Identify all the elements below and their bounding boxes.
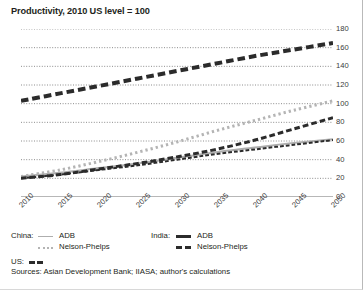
y-tick-label: 80: [336, 119, 344, 127]
plot-svg: [21, 29, 333, 197]
series-line: [21, 43, 333, 101]
legend-label-india-nelson-phelps: Nelson-Phelps: [197, 242, 248, 251]
y-tick-label: 160: [336, 44, 349, 52]
legend-row-3: US:: [11, 252, 351, 267]
legend-swatch-india-adb: [176, 235, 191, 238]
series-line: [21, 118, 333, 179]
x-axis-labels: 201020152020202520302035204020452050: [21, 203, 333, 231]
y-tick-label: 140: [336, 63, 349, 71]
legend-group-china: China:: [11, 231, 34, 240]
y-tick-label: 20: [336, 175, 344, 183]
x-tick-label: 2010: [17, 191, 35, 209]
legend-row-1: China: ADB India: ADB: [11, 230, 351, 241]
series-line: [21, 101, 333, 177]
legend-row-2: Nelson-Phelps Nelson-Phelps: [11, 241, 351, 252]
legend-swatch-india-nelson-phelps: [176, 246, 191, 249]
legend-group-india: India:: [151, 231, 170, 240]
legend-label-china-nelson-phelps: Nelson-Phelps: [59, 242, 110, 251]
chart-legend: China: ADB India: ADB Nelson-Phelps Nels…: [11, 230, 351, 267]
y-tick-label: 40: [336, 156, 344, 164]
legend-group-us: US:: [11, 257, 24, 266]
y-tick-label: 180: [336, 25, 349, 33]
y-tick-label: 60: [336, 137, 344, 145]
y-tick-label: 100: [336, 100, 349, 108]
page-title: Productivity, 2010 US level = 100: [11, 6, 150, 16]
sources-note: Sources: Asian Development Bank; IIASA; …: [11, 267, 230, 276]
legend-swatch-china-nelson-phelps: [38, 247, 53, 249]
legend-swatch-china-adb: [38, 236, 53, 237]
series-lines: [21, 43, 333, 178]
y-tick-label: 120: [336, 81, 349, 89]
legend-label-china-adb: ADB: [59, 231, 75, 240]
plot-area: [21, 29, 333, 197]
chart-figure: Productivity, 2010 US level = 100 020406…: [0, 0, 363, 290]
legend-label-india-adb: ADB: [197, 231, 213, 240]
y-axis-labels: 020406080100120140160180: [336, 29, 362, 197]
legend-swatch-us: [29, 261, 44, 264]
